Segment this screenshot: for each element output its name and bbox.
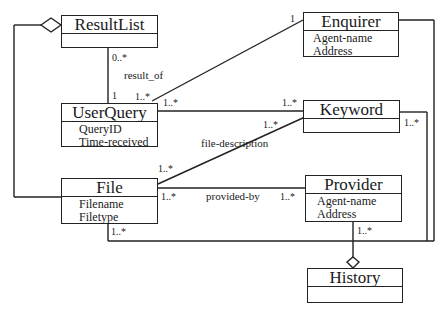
multiplicity: 1..* — [280, 192, 295, 202]
multiplicity: 1..* — [161, 192, 176, 202]
association-label-file-description: file-description — [201, 138, 268, 149]
multiplicity: 1..* — [263, 120, 278, 130]
association-label-provided-by: provided-by — [206, 191, 260, 202]
class-name: File — [62, 179, 157, 197]
class-resultlist[interactable]: ResultList — [61, 15, 158, 48]
class-attributes: Agent-name Address — [304, 31, 398, 59]
aggregation-diamond-history — [347, 257, 359, 268]
multiplicity: 1..* — [158, 164, 173, 174]
class-name: History — [308, 269, 402, 287]
multiplicity: 1..* — [282, 98, 297, 108]
multiplicity: 1 — [290, 14, 295, 24]
multiplicity: 1..* — [111, 227, 126, 237]
class-name: ResultList — [62, 16, 157, 34]
multiplicity: 0..* — [112, 53, 127, 63]
attribute: Filetype — [79, 211, 157, 224]
class-attributes: Filename Filetype — [62, 197, 157, 225]
class-attributes: Agent-name Address — [306, 194, 401, 222]
class-enquirer[interactable]: Enquirer Agent-name Address — [303, 12, 399, 57]
class-file[interactable]: File Filename Filetype — [61, 178, 158, 224]
multiplicity: 1..* — [404, 118, 419, 128]
class-history[interactable]: History — [307, 268, 403, 303]
aggregation-diamond-resultlist — [41, 18, 61, 32]
class-provider[interactable]: Provider Agent-name Address — [305, 175, 402, 222]
multiplicity: 1 — [112, 91, 117, 101]
class-name: Enquirer — [304, 13, 398, 31]
attribute: Address — [317, 208, 401, 221]
attribute: Time-received — [79, 136, 157, 149]
attribute: Address — [313, 45, 398, 58]
class-attributes: QueryID Time-received — [62, 122, 157, 150]
association-label-result-of: result_of — [124, 70, 163, 81]
multiplicity: 1..* — [357, 226, 372, 236]
class-userquery[interactable]: UserQuery QueryID Time-received — [61, 103, 158, 147]
class-name: Provider — [306, 176, 401, 194]
class-keyword[interactable]: Keyword — [303, 100, 400, 133]
class-name: Keyword — [304, 101, 399, 119]
multiplicity: 1..* — [135, 92, 150, 102]
class-name: UserQuery — [62, 104, 157, 122]
multiplicity: 1..* — [163, 98, 178, 108]
